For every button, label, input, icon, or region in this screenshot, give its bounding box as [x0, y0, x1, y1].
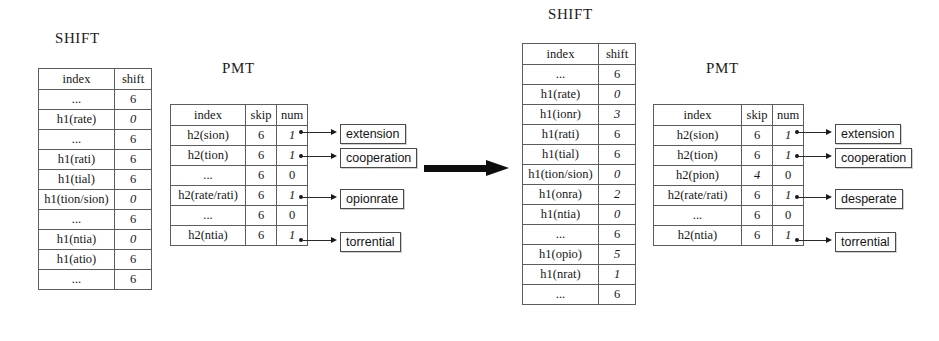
column-header-skip: skip: [246, 105, 277, 126]
table-row: h1(opio)5: [523, 245, 636, 265]
connector-line: [302, 132, 332, 133]
table-row: ...6: [523, 285, 636, 305]
cell-index: h1(nrat): [523, 265, 599, 285]
cell-index: h2(ntia): [171, 226, 246, 246]
cell-shift: 6: [599, 225, 636, 245]
table-row: ...60: [171, 166, 308, 186]
column-header-index: index: [654, 105, 742, 126]
table-row: h1(rati)6: [39, 150, 152, 170]
table-row: h2(sion)61: [171, 126, 308, 146]
table-row: ...6: [39, 90, 152, 110]
match-box: cooperation: [340, 148, 417, 168]
cell-index: ...: [171, 166, 246, 186]
cell-shift: 6: [115, 270, 152, 290]
cell-shift: 6: [115, 150, 152, 170]
column-header-num: num: [773, 105, 804, 126]
cell-shift: 1: [599, 265, 636, 285]
cell-skip: 6: [742, 126, 773, 146]
right-pmt-table: index skip num h2(sion)61h2(tion)61h2(pi…: [653, 104, 804, 246]
table-row: h2(pion)40: [654, 166, 804, 186]
cell-skip: 6: [742, 226, 773, 246]
diagram-canvas: SHIFT index shift ...6h1(rate)0...6h1(ra…: [0, 0, 939, 341]
cell-num: 1: [277, 226, 308, 246]
cell-skip: 6: [246, 126, 277, 146]
cell-num: 0: [277, 166, 308, 186]
cell-shift: 0: [599, 205, 636, 225]
column-header-index: index: [39, 69, 115, 90]
connector-line: [798, 197, 827, 198]
cell-index: ...: [523, 65, 599, 85]
table-row: h2(rate/rati)61: [171, 186, 308, 206]
connector-arrowhead: [331, 237, 337, 243]
right-shift-body: ...6h1(rate)0h1(ionr)3h1(rati)6h1(tial)6…: [523, 65, 636, 305]
connector-line: [302, 197, 332, 198]
cell-index: h1(opio): [523, 245, 599, 265]
cell-num: 1: [773, 226, 804, 246]
cell-shift: 0: [115, 230, 152, 250]
cell-skip: 6: [246, 206, 277, 226]
right-pmt-body: h2(sion)61h2(tion)61h2(pion)40h2(rate/ra…: [654, 126, 804, 246]
cell-shift: 0: [599, 165, 636, 185]
cell-shift: 6: [599, 145, 636, 165]
right-shift-table: index shift ...6h1(rate)0h1(ionr)3h1(rat…: [522, 43, 636, 305]
table-header-row: index skip num: [171, 105, 308, 126]
column-header-num: num: [277, 105, 308, 126]
cell-shift: 2: [599, 185, 636, 205]
left-pmt-title: PMT: [222, 60, 255, 77]
cell-index: h1(ntia): [39, 230, 115, 250]
cell-shift: 6: [115, 130, 152, 150]
left-shift-table: index shift ...6h1(rate)0...6h1(rati)6h1…: [38, 68, 152, 290]
match-box: extension: [340, 124, 406, 144]
table-row: ...6: [39, 210, 152, 230]
match-box: torrential: [835, 232, 896, 252]
left-pmt-table: index skip num h2(sion)61h2(tion)61...60…: [170, 104, 308, 246]
cell-shift: 6: [115, 90, 152, 110]
right-shift-title: SHIFT: [548, 6, 593, 23]
cell-skip: 6: [246, 186, 277, 206]
cell-num: 1: [773, 126, 804, 146]
cell-index: h2(tion): [171, 146, 246, 166]
cell-index: h2(ntia): [654, 226, 742, 246]
cell-shift: 6: [115, 170, 152, 190]
table-header-row: index shift: [39, 69, 152, 90]
connector-arrowhead: [826, 129, 832, 135]
table-row: h1(ionr)3: [523, 105, 636, 125]
cell-index: h2(sion): [654, 126, 742, 146]
table-row: h1(rate)0: [523, 85, 636, 105]
table-row: h1(atio)6: [39, 250, 152, 270]
connector-arrowhead: [331, 194, 337, 200]
cell-shift: 3: [599, 105, 636, 125]
cell-index: ...: [39, 90, 115, 110]
table-row: h2(sion)61: [654, 126, 804, 146]
connector-arrowhead: [826, 237, 832, 243]
cell-shift: 0: [599, 85, 636, 105]
table-row: ...60: [171, 206, 308, 226]
cell-skip: 6: [246, 166, 277, 186]
match-box: torrential: [340, 232, 401, 252]
cell-skip: 6: [742, 186, 773, 206]
cell-index: h1(rate): [523, 85, 599, 105]
table-row: h1(tion/sion)0: [523, 165, 636, 185]
connector-arrowhead: [826, 153, 832, 159]
cell-skip: 6: [246, 146, 277, 166]
table-row: h2(ntia)61: [654, 226, 804, 246]
connector-arrowhead: [331, 129, 337, 135]
right-pmt-title: PMT: [706, 60, 739, 77]
cell-index: ...: [39, 210, 115, 230]
cell-index: h2(pion): [654, 166, 742, 186]
table-row: h1(ntia)0: [39, 230, 152, 250]
cell-index: ...: [39, 270, 115, 290]
cell-index: ...: [523, 225, 599, 245]
cell-num: 1: [277, 126, 308, 146]
arrow-head: [486, 160, 509, 176]
left-shift-title: SHIFT: [55, 30, 100, 47]
cell-num: 0: [277, 206, 308, 226]
cell-index: h1(tion/sion): [523, 165, 599, 185]
column-header-skip: skip: [742, 105, 773, 126]
cell-shift: 0: [115, 110, 152, 130]
connector-arrowhead: [826, 194, 832, 200]
cell-shift: 6: [115, 210, 152, 230]
cell-shift: 6: [599, 125, 636, 145]
cell-index: h1(tion/sion): [39, 190, 115, 210]
table-header-row: index skip num: [654, 105, 804, 126]
